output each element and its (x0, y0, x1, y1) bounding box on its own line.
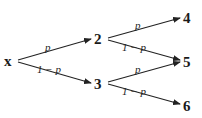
edge-label-2-4: p (134, 19, 141, 31)
edge-2-to-4 (108, 18, 180, 38)
edge-label-2-5: 1 − p (122, 41, 146, 53)
node-6: 6 (183, 98, 191, 114)
node-2: 2 (94, 31, 102, 47)
edge-label-3-5: p (134, 63, 141, 75)
node-5: 5 (183, 54, 191, 70)
node-4: 4 (183, 10, 191, 26)
probability-tree-diagram: p 1 − p p 1 − p p 1 − p x 2 3 4 5 6 (0, 0, 202, 118)
edge-label-x-3: 1 − p (37, 63, 61, 75)
edge-3-to-5 (108, 62, 180, 82)
edge-label-x-2: p (44, 41, 51, 53)
edge-label-3-6: 1 − p (122, 85, 146, 97)
node-x: x (4, 53, 12, 69)
node-3: 3 (94, 76, 102, 92)
edge-x-to-2 (18, 39, 91, 60)
